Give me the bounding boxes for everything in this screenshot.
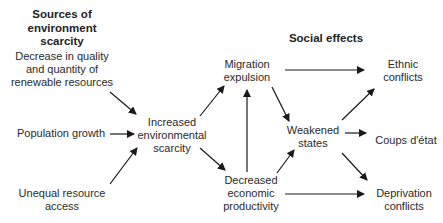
node-increased-scarcity: Increased environmental scarcity [134,116,210,155]
social-effects-heading: Social effects [283,32,369,46]
arrow-unequal-to-increased [110,148,137,184]
node-ethnic-conflicts: Ethnic conflicts [373,58,433,84]
arrow-increased-to-migration [200,86,224,116]
arrow-decrease-to-increased [110,92,136,114]
node-population-growth: Population growth [14,127,108,140]
arrow-decreased-to-weakened [277,150,294,173]
node-weakened-states: Weakened states [284,124,342,150]
node-coups-detat: Coups d'état [370,134,442,147]
node-unequal-access: Unequal resource access [12,187,112,213]
node-migration-expulsion: Migration expulsion [216,58,278,84]
arrow-migration-to-weakened [272,87,289,121]
arrow-weakened-to-ethnic [342,89,374,120]
node-deprivation-conflicts: Deprivation conflicts [368,187,440,213]
node-decreased-productivity: Decreased economic productivity [218,174,284,213]
sources-heading: Sources of environment scarcity [12,8,112,49]
arrow-weakened-to-deprivation [342,153,367,180]
node-decrease-renewable: Decrease in quality and quantity of rene… [2,50,122,89]
